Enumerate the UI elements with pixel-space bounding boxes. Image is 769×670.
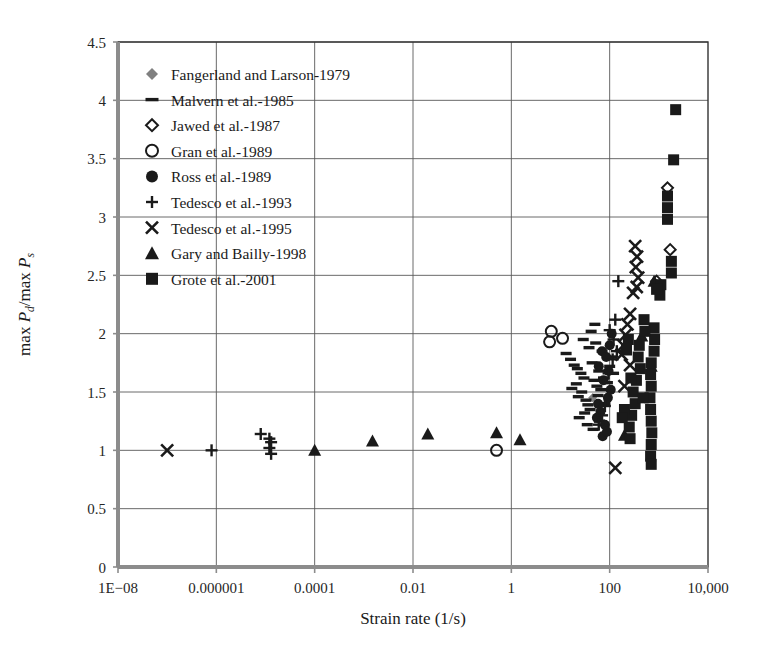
marker-square-filled [662,202,673,213]
marker-square-filled [635,363,646,374]
plot-canvas: 00.511.522.533.544.51E−080.0000010.00010… [0,0,769,670]
marker-square-filled [146,273,158,285]
legend-label: Malvern et al.-1985 [171,92,294,109]
x-axis-title: Strain rate (1/s) [360,609,466,628]
marker-square-filled [670,104,681,115]
marker-circle-filled [146,170,158,182]
marker-circle-filled [602,427,612,437]
marker-square-filled [628,387,639,398]
marker-square-filled [646,357,657,368]
marker-square-filled [639,326,650,337]
marker-square-filled [623,334,634,345]
y-tick-label: 4.5 [87,35,106,51]
y-tick-label: 3 [99,210,107,226]
x-tick-label: 0.0001 [294,580,335,596]
marker-square-filled [651,284,662,295]
y-tick-label: 4 [99,93,107,109]
marker-square-filled [634,340,645,351]
legend-label: Gran et al.-1989 [171,143,272,160]
legend-item[interactable]: Fangerland and Larson-1979 [146,66,350,83]
marker-square-filled [662,191,673,202]
legend-label: Ross et al.-1989 [171,168,272,185]
y-axis-title-text: max Pd/max Ps [15,253,36,356]
marker-circle-filled [606,385,616,395]
marker-square-filled [625,433,636,444]
marker-square-filled [645,404,656,415]
marker-circle-filled [594,361,604,371]
marker-square-filled [646,381,657,392]
scatter-plot-svg: 00.511.522.533.544.51E−080.0000010.00010… [0,0,769,670]
y-axis: 00.511.522.533.544.5 [87,35,118,576]
y-tick-label: 0.5 [87,501,106,517]
legend-label: Fangerland and Larson-1979 [171,66,350,83]
y-tick-label: 1.5 [87,385,106,401]
marker-square-filled [633,352,644,363]
y-axis-title: max Pd/max Ps [15,253,36,356]
x-tick-label: 0.01 [400,580,426,596]
marker-square-filled [621,345,632,356]
legend-label: Gary and Bailly-1998 [171,245,306,262]
legend-label: Grote et al.-2001 [171,271,276,288]
marker-square-filled [645,369,656,380]
x-axis: 1E−080.0000010.00010.01110010,000 [98,567,729,596]
marker-square-filled [668,154,679,165]
marker-square-filled [646,439,657,450]
legend-label: Jawed et al.-1987 [171,117,280,134]
x-tick-label: 100 [598,580,621,596]
chart-figure: 00.511.522.533.544.51E−080.0000010.00010… [0,0,769,670]
x-tick-label: 1 [508,580,516,596]
marker-square-filled [666,268,677,279]
y-tick-label: 2 [99,326,107,342]
marker-square-filled [662,214,673,225]
legend-label: Tedesco et al.-1993 [171,194,292,211]
marker-square-filled [617,412,628,423]
x-tick-label: 1E−08 [98,580,138,596]
marker-square-filled [638,392,649,403]
marker-square-filled [639,314,650,325]
x-tick-label: 0.000001 [188,580,244,596]
marker-square-filled [646,416,657,427]
marker-square-filled [646,459,657,470]
marker-square-filled [649,346,660,357]
marker-square-filled [625,373,636,384]
y-tick-label: 3.5 [87,151,106,167]
y-tick-label: 1 [99,443,107,459]
y-tick-label: 0 [99,560,107,576]
marker-square-filled [649,334,660,345]
marker-circle-filled [599,375,609,385]
x-tick-label: 10,000 [687,580,728,596]
y-tick-label: 2.5 [87,268,106,284]
marker-square-filled [666,256,677,267]
marker-square-filled [646,427,657,438]
legend-label: Tedesco et al.-1995 [171,220,292,237]
